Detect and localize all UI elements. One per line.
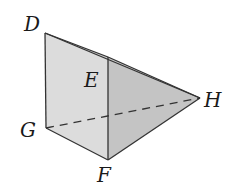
solid-diagram: D E H G F (0, 0, 245, 184)
face-defg (45, 33, 108, 160)
face-ehf (108, 57, 200, 160)
label-e: E (83, 68, 99, 92)
label-g: G (20, 118, 36, 142)
label-d: D (23, 12, 40, 36)
label-h: H (203, 88, 222, 112)
label-f: F (96, 163, 112, 184)
